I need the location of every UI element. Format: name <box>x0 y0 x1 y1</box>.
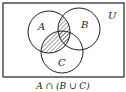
caption: A ∩ (B ∪ C) <box>35 81 90 91</box>
venn-diagram: A B C U A ∩ (B ∪ C) <box>0 0 126 92</box>
set-a-label: A <box>37 21 45 32</box>
set-b-label: B <box>80 19 88 30</box>
universe-label: U <box>108 10 117 21</box>
set-c-label: C <box>58 57 66 68</box>
shaded-region <box>41 8 100 73</box>
